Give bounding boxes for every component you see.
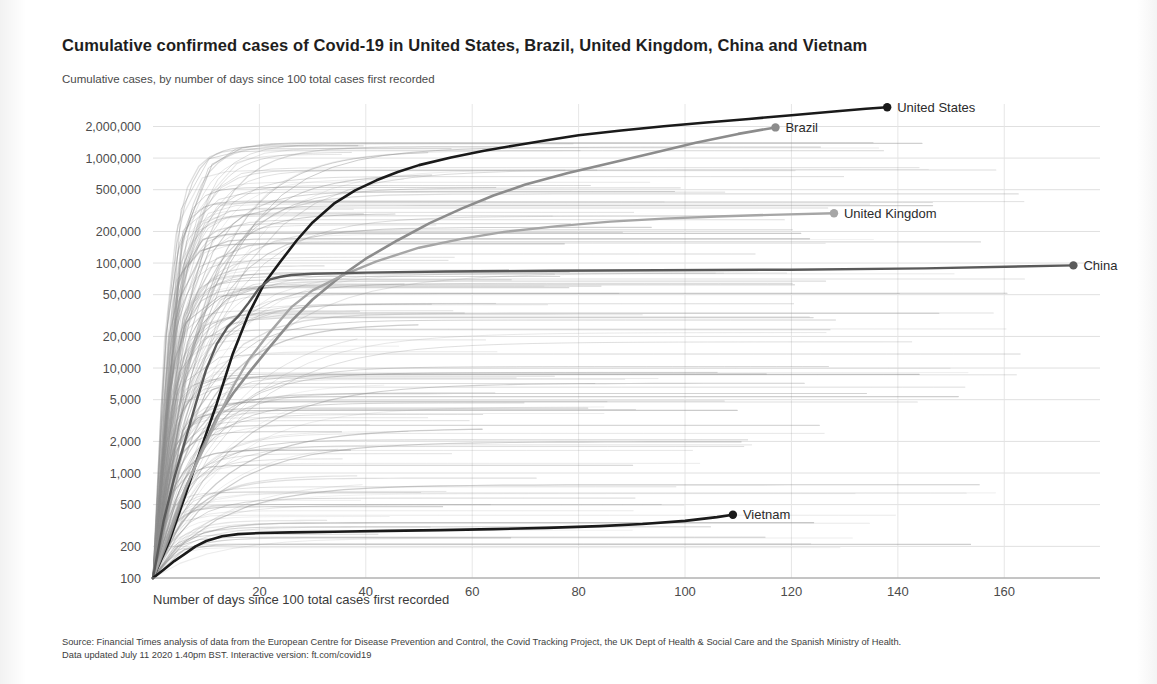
source-note: Source: Financial Times analysis of data… bbox=[62, 636, 1122, 661]
series-label-brazil: Brazil bbox=[785, 120, 818, 135]
x-tick-label: 80 bbox=[571, 584, 585, 599]
end-marker-united-kingdom bbox=[830, 209, 838, 217]
x-tick-label: 120 bbox=[781, 584, 803, 599]
y-tick-label: 2,000,000 bbox=[85, 120, 141, 134]
chart-page: Cumulative confirmed cases of Covid-19 i… bbox=[0, 0, 1157, 684]
y-tick-label: 1,000 bbox=[110, 467, 141, 481]
y-tick-label: 5,000 bbox=[110, 393, 141, 407]
series-end-markers bbox=[729, 103, 1078, 519]
y-axis-tick-labels: 1002005001,0002,0005,00010,00020,00050,0… bbox=[85, 120, 141, 586]
series-label-united-states: United States bbox=[897, 100, 976, 115]
end-marker-china bbox=[1069, 261, 1077, 269]
x-tick-label: 100 bbox=[674, 584, 696, 599]
y-tick-label: 1,000,000 bbox=[85, 152, 141, 166]
end-marker-vietnam bbox=[729, 511, 737, 519]
y-tick-label: 50,000 bbox=[103, 288, 141, 302]
x-tick-label: 60 bbox=[465, 584, 479, 599]
x-tick-label: 140 bbox=[887, 584, 909, 599]
y-tick-label: 100 bbox=[120, 572, 141, 586]
chart-container: 1002005001,0002,0005,00010,00020,00050,0… bbox=[0, 0, 1157, 684]
y-tick-label: 20,000 bbox=[103, 330, 141, 344]
series-labels: United StatesBrazilUnited KingdomChinaVi… bbox=[743, 100, 1118, 523]
y-tick-label: 200,000 bbox=[96, 225, 141, 239]
series-label-united-kingdom: United Kingdom bbox=[844, 206, 937, 221]
x-axis-title: Number of days since 100 total cases fir… bbox=[153, 592, 449, 607]
source-note-line-1: Source: Financial Times analysis of data… bbox=[62, 636, 1122, 649]
y-tick-label: 500,000 bbox=[96, 183, 141, 197]
series-label-vietnam: Vietnam bbox=[743, 507, 790, 522]
series-label-china: China bbox=[1083, 258, 1118, 273]
covid-cumulative-cases-chart: 1002005001,0002,0005,00010,00020,00050,0… bbox=[0, 0, 1157, 684]
end-marker-brazil bbox=[771, 123, 779, 131]
x-tick-label: 160 bbox=[993, 584, 1015, 599]
source-note-line-2: Data updated July 11 2020 1.40pm BST. In… bbox=[62, 649, 1122, 662]
y-tick-label: 200 bbox=[120, 540, 141, 554]
y-tick-label: 500 bbox=[120, 498, 141, 512]
y-tick-label: 10,000 bbox=[103, 362, 141, 376]
end-marker-united-states bbox=[883, 103, 891, 111]
y-tick-label: 2,000 bbox=[110, 435, 141, 449]
y-tick-label: 100,000 bbox=[96, 257, 141, 271]
